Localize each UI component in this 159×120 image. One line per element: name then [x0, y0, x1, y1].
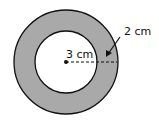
- ring-width-label: 2 cm: [124, 25, 151, 38]
- annulus-diagram: 3 cm 2 cm: [0, 0, 159, 120]
- inner-radius-label: 3 cm: [66, 48, 93, 61]
